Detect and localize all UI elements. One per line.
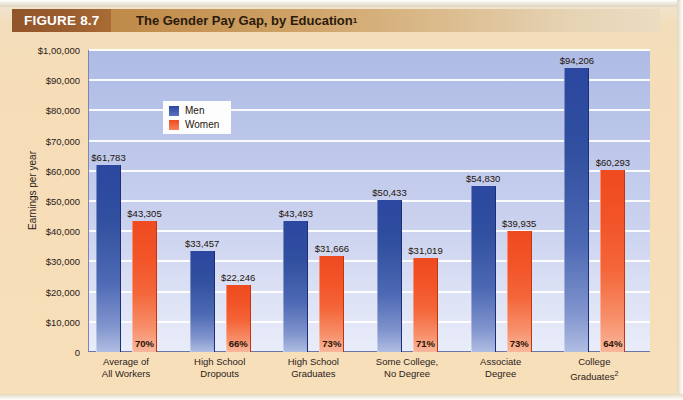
bar-group: $43,493$31,66673%High SchoolGraduates: [275, 50, 369, 352]
bar-value-men: $54,830: [466, 173, 500, 184]
x-axis-category-line: Degree: [480, 368, 521, 380]
figure-title-footnote-marker: 1: [353, 16, 357, 25]
page-edge-bottom: [0, 394, 683, 400]
x-axis-category-line: Some College,: [376, 356, 438, 368]
ratio-annotation: 64%: [603, 338, 622, 349]
bar-men[interactable]: $50,433: [377, 200, 402, 352]
bar-women[interactable]: $22,24666%: [226, 285, 251, 352]
x-axis-category-line: Graduates2: [570, 368, 618, 383]
legend-item-women: Women: [169, 119, 219, 130]
bar-group: $54,830$39,93573%AssociateDegree: [463, 50, 557, 352]
bar-women[interactable]: $31,66673%: [319, 256, 344, 352]
y-axis-tick-label: $40,000: [46, 226, 80, 237]
legend-swatch-women-icon: [169, 120, 179, 130]
chart-legend: Men Women: [163, 101, 231, 134]
legend-label-women: Women: [185, 119, 219, 130]
x-axis-category-line: High School: [288, 356, 339, 368]
y-axis-tick-label: $1,00,000: [38, 45, 80, 56]
y-axis-title: Earnings per year: [27, 131, 38, 251]
x-axis-category-line: Average of: [102, 356, 150, 368]
page-edge-right: [677, 0, 683, 400]
bar-men[interactable]: $61,783: [96, 165, 121, 352]
bar-women[interactable]: $60,29364%: [600, 170, 625, 352]
bar-men[interactable]: $43,493: [283, 221, 308, 352]
x-axis-category-label: High SchoolGraduates: [288, 356, 339, 379]
y-axis-tick-label: $20,000: [46, 286, 80, 297]
bar-women[interactable]: $39,93573%: [507, 231, 532, 352]
bar-value-women: $31,019: [408, 245, 442, 256]
bar-group: $94,206$60,29364%CollegeGraduates2: [556, 50, 650, 352]
figure-title-text: The Gender Pay Gap, by Education: [136, 13, 353, 28]
x-axis-category-line: High School: [194, 356, 245, 368]
figure-number-block: FIGURE 8.7: [12, 9, 111, 32]
y-axis-tick-label: $70,000: [46, 135, 80, 146]
bar-women[interactable]: $31,01971%: [413, 258, 438, 352]
bar-group: $50,433$31,01971%Some College,No Degree: [369, 50, 463, 352]
bar-value-men: $61,783: [91, 152, 125, 163]
x-axis-category-label: CollegeGraduates2: [570, 356, 618, 382]
bar-value-men: $43,493: [279, 208, 313, 219]
bar-value-women: $43,305: [127, 208, 161, 219]
legend-label-men: Men: [185, 105, 204, 116]
bar-value-men: $33,457: [185, 238, 219, 249]
x-axis-category-line: College: [570, 356, 618, 368]
y-axis-labels: 0$10,000$20,000$30,000$40,000$50,000$60,…: [0, 50, 86, 352]
bar-value-women: $31,666: [315, 243, 349, 254]
x-axis-category-label: Some College,No Degree: [376, 356, 438, 379]
bar-value-women: $60,293: [596, 157, 630, 168]
x-axis-category-line: Dropouts: [194, 368, 245, 380]
x-axis-category-line: All Workers: [102, 368, 150, 380]
legend-swatch-men-icon: [169, 106, 179, 116]
bar-value-women: $39,935: [502, 218, 536, 229]
figure-root: FIGURE 8.7 The Gender Pay Gap, by Educat…: [0, 0, 683, 400]
bar-group: $33,457$22,24666%High SchoolDropouts: [182, 50, 276, 352]
figure-number-label: FIGURE 8.7: [24, 13, 100, 28]
y-axis-tick-label: $90,000: [46, 75, 80, 86]
bar-groups: $61,783$43,30570%Average ofAll Workers$3…: [88, 50, 650, 352]
ratio-annotation: 73%: [322, 338, 341, 349]
bar-women[interactable]: $43,30570%: [132, 221, 157, 352]
bar-men[interactable]: $94,206: [564, 68, 589, 353]
ratio-annotation: 71%: [416, 338, 435, 349]
bar-men[interactable]: $54,830: [471, 186, 496, 352]
ratio-annotation: 66%: [229, 338, 248, 349]
x-axis-category-label: AssociateDegree: [480, 356, 521, 379]
page-edge-top: [0, 0, 683, 7]
y-axis-tick-label: $10,000: [46, 316, 80, 327]
bar-men[interactable]: $33,457: [190, 251, 215, 352]
y-axis-tick-label: $80,000: [46, 105, 80, 116]
figure-banner: FIGURE 8.7 The Gender Pay Gap, by Educat…: [12, 9, 660, 32]
bar-value-men: $50,433: [372, 187, 406, 198]
category-footnote-marker: 2: [615, 370, 619, 377]
ratio-annotation: 73%: [510, 338, 529, 349]
ratio-annotation: 70%: [135, 338, 154, 349]
y-axis-tick-label: 0: [75, 347, 80, 358]
bar-group: $61,783$43,30570%Average ofAll Workers: [88, 50, 182, 352]
y-axis-tick-label: $30,000: [46, 256, 80, 267]
y-axis-tick-label: $60,000: [46, 165, 80, 176]
x-axis-category-line: No Degree: [376, 368, 438, 380]
x-axis-category-label: High SchoolDropouts: [194, 356, 245, 379]
figure-title: The Gender Pay Gap, by Education1: [136, 9, 357, 32]
x-axis-category-line: Associate: [480, 356, 521, 368]
x-axis-category-line: Graduates: [288, 368, 339, 380]
legend-item-men: Men: [169, 105, 219, 116]
x-axis-category-label: Average ofAll Workers: [102, 356, 150, 379]
y-axis-tick-label: $50,000: [46, 196, 80, 207]
bar-value-women: $22,246: [221, 272, 255, 283]
bar-value-men: $94,206: [560, 55, 594, 66]
